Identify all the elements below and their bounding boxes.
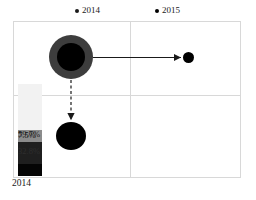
inset-stacked-bar: 59.7% 7.5% 32.8% bbox=[18, 84, 42, 176]
bar-segment-label-2: 32.8% bbox=[18, 147, 40, 156]
chart-canvas: 2014 2015 59.7% 7.5% 32. bbox=[0, 0, 256, 200]
bubble-2015[interactable] bbox=[183, 52, 194, 63]
bubble-2014-projected[interactable] bbox=[56, 122, 86, 150]
bar-axis-label: 2014 bbox=[12, 178, 31, 188]
bar-segment-0[interactable] bbox=[18, 84, 42, 130]
bar-segment-label-1: 7.5% bbox=[18, 131, 36, 140]
bubble-2014-inner[interactable] bbox=[57, 43, 85, 71]
bar-segment-3[interactable] bbox=[18, 164, 42, 176]
